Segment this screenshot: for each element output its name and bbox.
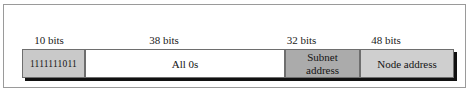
field-node-address: Node address <box>360 49 454 78</box>
field-subnet-address-line1: Subnet <box>306 51 339 64</box>
bit-label-node-address: 48 bits <box>339 33 433 47</box>
address-bar: 1111111011 All 0s Subnet address Node ad… <box>22 49 454 78</box>
field-all-zeros: All 0s <box>85 49 285 78</box>
field-subnet-address-line2: address <box>306 64 339 77</box>
bit-field-diagram: 10 bits 38 bits 32 bits 48 bits 11111110… <box>0 0 471 95</box>
bit-label-subnet-address: 32 bits <box>264 33 339 47</box>
figure-frame: 10 bits 38 bits 32 bits 48 bits 11111110… <box>3 4 466 88</box>
bit-label-all-zeros: 38 bits <box>64 33 264 47</box>
field-subnet-address: Subnet address <box>285 49 360 78</box>
field-prefix: 1111111011 <box>22 49 85 78</box>
